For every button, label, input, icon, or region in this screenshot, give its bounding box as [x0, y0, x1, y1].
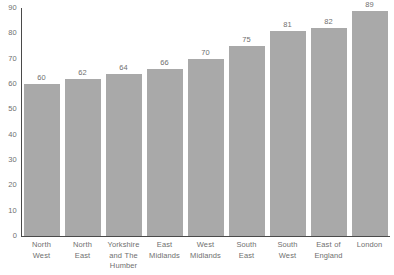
x-category-label-line: Yorkshire — [103, 240, 144, 251]
y-tick-label: 80 — [0, 29, 17, 37]
x-category-label: EastMidlands — [144, 240, 185, 261]
x-category-label: SouthEast — [226, 240, 267, 261]
bar-column[interactable]: 82 — [311, 8, 347, 236]
x-category-label-line: Midlands — [144, 251, 185, 262]
bar-value-label: 82 — [311, 17, 347, 26]
x-category-label-line: Humber — [103, 261, 144, 272]
bar-column[interactable]: 81 — [270, 8, 306, 236]
bar-value-label: 89 — [352, 0, 388, 9]
x-category-label-line: West — [185, 240, 226, 251]
x-category-label: London — [349, 240, 390, 251]
y-tick-label: 40 — [0, 131, 17, 139]
bar-rect[interactable] — [311, 28, 347, 236]
y-tick-label: 20 — [0, 181, 17, 189]
bar-column[interactable]: 60 — [24, 8, 60, 236]
x-category-label-line: East — [144, 240, 185, 251]
y-axis-tick-labels: 0102030405060708090 — [0, 0, 17, 244]
bar-rect[interactable] — [352, 11, 388, 236]
x-category-label: WestMidlands — [185, 240, 226, 261]
x-category-label-line: England — [308, 251, 349, 262]
bar-rect[interactable] — [270, 31, 306, 236]
x-category-label-line: North — [21, 240, 62, 251]
bar-rect[interactable] — [147, 69, 183, 236]
bar-rect[interactable] — [106, 74, 142, 236]
bar-value-label: 66 — [147, 58, 183, 67]
x-category-label: NorthEast — [62, 240, 103, 261]
bar-value-label: 62 — [65, 68, 101, 77]
x-category-label-line: North — [62, 240, 103, 251]
bar-series: 606264667075818289 — [21, 8, 390, 236]
y-tick-label: 50 — [0, 105, 17, 113]
y-tick-label: 90 — [0, 4, 17, 12]
bar-column[interactable]: 75 — [229, 8, 265, 236]
x-category-label-line: London — [349, 240, 390, 251]
y-tick-label: 70 — [0, 55, 17, 63]
x-category-label-line: and The — [103, 251, 144, 262]
x-category-label-line: Midlands — [185, 251, 226, 262]
y-tick-label: 10 — [0, 207, 17, 215]
x-category-label-line: South — [226, 240, 267, 251]
x-axis-category-labels: NorthWestNorthEastYorkshireand TheHumber… — [21, 240, 390, 275]
x-category-label: NorthWest — [21, 240, 62, 261]
bar-rect[interactable] — [65, 79, 101, 236]
bar-rect[interactable] — [229, 46, 265, 236]
y-tick-label: 0 — [0, 232, 17, 240]
bar-chart: 0102030405060708090 606264667075818289 N… — [0, 0, 394, 275]
x-category-label-line: West — [267, 251, 308, 262]
x-category-label-line: East — [62, 251, 103, 262]
x-category-label: East ofEngland — [308, 240, 349, 261]
bar-rect[interactable] — [188, 59, 224, 236]
x-category-label-line: East of — [308, 240, 349, 251]
bar-column[interactable]: 70 — [188, 8, 224, 236]
x-category-label-line: West — [21, 251, 62, 262]
x-axis-line — [21, 236, 390, 237]
bar-value-label: 60 — [24, 73, 60, 82]
x-category-label-line: East — [226, 251, 267, 262]
bar-value-label: 81 — [270, 20, 306, 29]
x-category-label-line: South — [267, 240, 308, 251]
bar-value-label: 64 — [106, 63, 142, 72]
bar-column[interactable]: 89 — [352, 8, 388, 236]
bar-value-label: 75 — [229, 35, 265, 44]
bar-rect[interactable] — [24, 84, 60, 236]
bar-column[interactable]: 64 — [106, 8, 142, 236]
bar-column[interactable]: 66 — [147, 8, 183, 236]
x-category-label: SouthWest — [267, 240, 308, 261]
x-category-label: Yorkshireand TheHumber — [103, 240, 144, 272]
bar-value-label: 70 — [188, 48, 224, 57]
y-tick-label: 30 — [0, 156, 17, 164]
bar-column[interactable]: 62 — [65, 8, 101, 236]
y-tick-label: 60 — [0, 80, 17, 88]
